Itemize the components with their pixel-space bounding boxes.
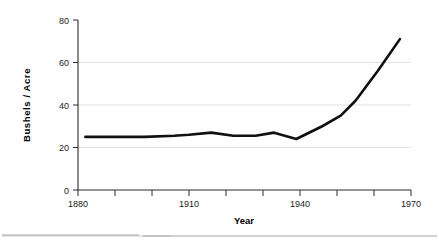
x-axis-title: Year bbox=[234, 215, 254, 226]
x-tick-label-1910: 1910 bbox=[179, 199, 199, 209]
y-axis-title: Bushels / Acre bbox=[21, 68, 32, 142]
y-tick-label-60: 60 bbox=[59, 58, 69, 68]
x-tick-label-1970: 1970 bbox=[401, 199, 421, 209]
y-tick-label-0: 0 bbox=[64, 186, 69, 196]
line-chart-canvas: 80 60 40 20 0 1880 1910 1940 1970 Year B… bbox=[0, 0, 439, 247]
y-tick-label-80: 80 bbox=[59, 16, 69, 26]
x-tick-label-1940: 1940 bbox=[290, 199, 310, 209]
y-tick-label-40: 40 bbox=[59, 101, 69, 111]
chart-background bbox=[0, 0, 439, 247]
chart-figure: 80 60 40 20 0 1880 1910 1940 1970 Year B… bbox=[0, 0, 439, 247]
x-tick-label-1880: 1880 bbox=[68, 199, 88, 209]
y-tick-label-20: 20 bbox=[59, 143, 69, 153]
